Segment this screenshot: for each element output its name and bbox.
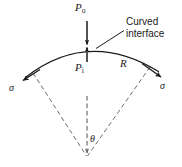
label-sigma-left: σ bbox=[9, 83, 14, 94]
label-theta: θ bbox=[90, 134, 95, 145]
label-sigma-right: σ bbox=[160, 81, 165, 92]
curved-interface-diagram: Po Pi R σ σ θ Curved interface bbox=[0, 0, 182, 167]
curved-interface-arc bbox=[26, 51, 159, 77]
label-pressure-inside-subscript: i bbox=[82, 66, 84, 75]
label-curved-interface-line1: Curved bbox=[126, 16, 164, 28]
label-pressure-inside-symbol: P bbox=[75, 61, 82, 73]
label-pressure-outside: Po bbox=[75, 2, 85, 14]
radius-line-left bbox=[33, 73, 87, 156]
sigma-left-arrow bbox=[23, 70, 40, 81]
label-pressure-inside: Pi bbox=[75, 62, 84, 74]
label-pressure-outside-symbol: P bbox=[75, 1, 82, 13]
label-curved-interface-line2: interface bbox=[126, 28, 164, 40]
radius-line-right bbox=[88, 67, 151, 156]
label-radius: R bbox=[120, 58, 127, 70]
label-pressure-outside-subscript: o bbox=[82, 6, 86, 15]
label-curved-interface: Curved interface bbox=[126, 16, 164, 39]
curved-interface-leader bbox=[96, 31, 124, 49]
